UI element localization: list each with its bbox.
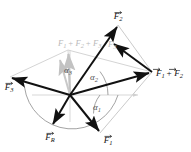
label-f3-translated: F3 <box>107 39 117 50</box>
reference-axes <box>32 50 138 122</box>
construction-line-f1-sum12 <box>100 72 152 133</box>
construction-line-f2-sum12 <box>118 25 152 72</box>
label-alpha2: α2 <box>90 72 99 83</box>
angle-arc-alpha2 <box>100 72 108 96</box>
vector-f1 <box>70 95 99 131</box>
angle-arcs <box>25 72 119 129</box>
vector-canvas: F2 F3 F1 FR F1+ F2 <box>0 0 191 152</box>
construction-line-f3-top <box>10 50 68 77</box>
vector-fr <box>53 95 70 124</box>
vector-f3 <box>12 78 70 95</box>
vector-diagram: F2 F3 F1 FR F1+ F2 <box>0 0 191 152</box>
label-alpha3: α3 <box>64 65 73 76</box>
label-sum-123: F1+ F2+ F3 <box>57 38 102 49</box>
label-alpha1: α1 <box>93 102 101 113</box>
construction-line-top-right <box>68 50 152 72</box>
vector-f3-translated <box>114 44 152 72</box>
